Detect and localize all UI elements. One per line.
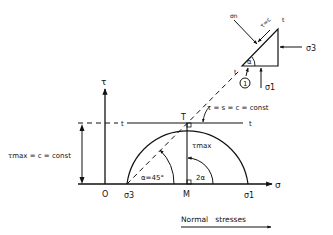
- element-t-top-label: t: [282, 16, 285, 23]
- plane-number-label: 1: [243, 80, 247, 88]
- tangent-point-label: T: [180, 113, 186, 122]
- two-alpha-label: 2α: [196, 174, 205, 182]
- sigma1-label: σ1: [244, 191, 254, 200]
- t-left-label: t: [121, 120, 124, 128]
- element-alpha-arc: [252, 57, 255, 66]
- sigma-n-label: σn: [230, 12, 238, 19]
- normal-stresses-label: Normal stresses: [181, 215, 246, 224]
- origin-label: O: [102, 190, 108, 199]
- tau-axis-label: τ: [101, 77, 106, 87]
- sigma-n-arrow: [234, 20, 257, 44]
- mohr-circle-diagram: τ σ O σ3 M σ1 T τmax τmax = c = const τ …: [0, 0, 333, 235]
- alpha-label: α=45°: [141, 174, 164, 182]
- right-angle-marker-top: [187, 123, 191, 127]
- element-alpha-label: α: [247, 58, 252, 66]
- tau-c-label: τ=c: [258, 16, 271, 29]
- element-sigma3-label: σ3: [306, 44, 316, 53]
- tangent-line-label: τ = s = c = const: [207, 104, 269, 112]
- t-right-label: t: [249, 120, 252, 128]
- failure-plane-line: [127, 70, 240, 184]
- plane-marker-arrow: [246, 68, 248, 76]
- center-label: M: [183, 190, 190, 199]
- tau-max-label: τmax: [192, 142, 211, 150]
- element-sigma1-label: σ1: [265, 83, 275, 92]
- tau-c-arrow: [258, 30, 270, 42]
- sigma3-label: σ3: [124, 191, 134, 200]
- tau-max-const-label: τmax = c = const: [8, 152, 71, 160]
- sigma-axis-label: σ: [275, 180, 281, 190]
